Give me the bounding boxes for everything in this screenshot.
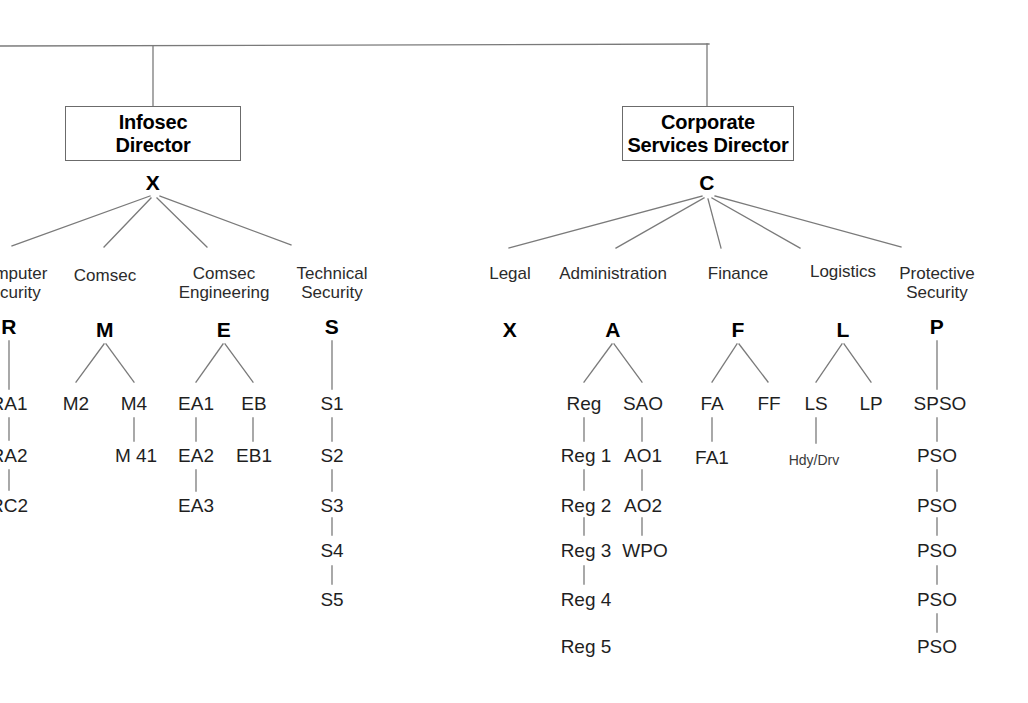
code-M: M	[96, 318, 114, 342]
node-M41[interactable]: M 41	[115, 445, 157, 466]
node-RC2[interactable]: RC2	[0, 495, 28, 516]
dept-legal[interactable]: Legal	[489, 264, 531, 283]
node-Reg4[interactable]: Reg 4	[561, 589, 612, 610]
dept-logistics-line1: Logistics	[810, 262, 876, 281]
node-WPO[interactable]: WPO	[622, 540, 667, 561]
dept-computer-security[interactable]: Computer Security	[0, 264, 47, 302]
infosec-director-box[interactable]: Infosec Director	[65, 106, 241, 161]
corporate-services-line1: Corporate	[627, 111, 788, 134]
node-EB[interactable]: EB	[241, 393, 266, 414]
infosec-director-line1: Infosec	[115, 111, 190, 134]
node-FA1[interactable]: FA1	[695, 447, 729, 468]
corporate-services-director-code: C	[699, 171, 714, 195]
node-FF[interactable]: FF	[757, 393, 780, 414]
infosec-director-code: X	[146, 171, 160, 195]
corporate-services-line2: Services Director	[627, 134, 788, 157]
code-L: L	[836, 318, 849, 342]
node-EA1[interactable]: EA1	[178, 393, 214, 414]
node-PSO-1[interactable]: PSO	[917, 445, 957, 466]
node-LS[interactable]: LS	[804, 393, 827, 414]
node-EA3[interactable]: EA3	[178, 495, 214, 516]
dept-legal-line1: Legal	[489, 264, 531, 283]
node-SPSO[interactable]: SPSO	[914, 393, 967, 414]
node-Reg3[interactable]: Reg 3	[561, 540, 612, 561]
node-S1[interactable]: S1	[320, 393, 343, 414]
corporate-services-director-box[interactable]: Corporate Services Director	[622, 106, 794, 161]
code-P: P	[930, 315, 944, 339]
code-S: S	[325, 315, 339, 339]
node-LP[interactable]: LP	[859, 393, 882, 414]
code-X-legal: X	[503, 318, 517, 342]
node-EB1[interactable]: EB1	[236, 445, 272, 466]
dept-protective-security-line1: Protective	[899, 264, 975, 283]
node-S2[interactable]: S2	[320, 445, 343, 466]
dept-comsec-engineering-line2: Engineering	[179, 283, 270, 302]
dept-finance[interactable]: Finance	[708, 264, 768, 283]
node-M4[interactable]: M4	[121, 393, 147, 414]
dept-administration-line1: Administration	[559, 264, 667, 283]
node-M2[interactable]: M2	[63, 393, 89, 414]
dept-computer-security-line2: Security	[0, 283, 41, 302]
node-PSO-4[interactable]: PSO	[917, 589, 957, 610]
dept-computer-security-line1: Computer	[0, 264, 47, 283]
node-RA2[interactable]: RA2	[0, 445, 27, 466]
code-F: F	[731, 318, 744, 342]
dept-technical-security[interactable]: Technical Security	[297, 264, 368, 302]
node-PSO-5[interactable]: PSO	[917, 636, 957, 657]
dept-logistics[interactable]: Logistics	[810, 262, 876, 281]
node-AO1[interactable]: AO1	[624, 445, 662, 466]
node-EA2[interactable]: EA2	[178, 445, 214, 466]
dept-technical-security-line1: Technical	[297, 264, 368, 283]
node-Hdy-Drv[interactable]: Hdy/Drv	[789, 453, 840, 469]
node-Reg[interactable]: Reg	[567, 393, 602, 414]
dept-comsec-line1: Comsec	[74, 266, 136, 285]
infosec-director-line2: Director	[115, 134, 190, 157]
node-Reg2[interactable]: Reg 2	[561, 495, 612, 516]
dept-finance-line1: Finance	[708, 264, 768, 283]
node-FA[interactable]: FA	[700, 393, 723, 414]
node-RA1[interactable]: RA1	[0, 393, 27, 414]
dept-comsec-engineering-line1: Comsec	[193, 264, 255, 283]
node-PSO-3[interactable]: PSO	[917, 540, 957, 561]
node-S3[interactable]: S3	[320, 495, 343, 516]
dept-comsec-engineering[interactable]: Comsec Engineering	[179, 264, 270, 302]
node-S4[interactable]: S4	[320, 540, 343, 561]
dept-administration[interactable]: Administration	[559, 264, 667, 283]
code-A: A	[605, 318, 620, 342]
node-S5[interactable]: S5	[320, 589, 343, 610]
node-PSO-2[interactable]: PSO	[917, 495, 957, 516]
dept-technical-security-line2: Security	[301, 283, 362, 302]
dept-protective-security-line2: Security	[906, 283, 967, 302]
node-AO2[interactable]: AO2	[624, 495, 662, 516]
node-SAO[interactable]: SAO	[623, 393, 663, 414]
node-Reg1[interactable]: Reg 1	[561, 445, 612, 466]
dept-comsec[interactable]: Comsec	[74, 266, 136, 285]
node-Reg5[interactable]: Reg 5	[561, 636, 612, 657]
org-chart: Infosec Director X Corporate Services Di…	[0, 0, 1028, 703]
dept-protective-security[interactable]: Protective Security	[899, 264, 975, 302]
code-R: R	[1, 315, 16, 339]
code-E: E	[217, 318, 231, 342]
